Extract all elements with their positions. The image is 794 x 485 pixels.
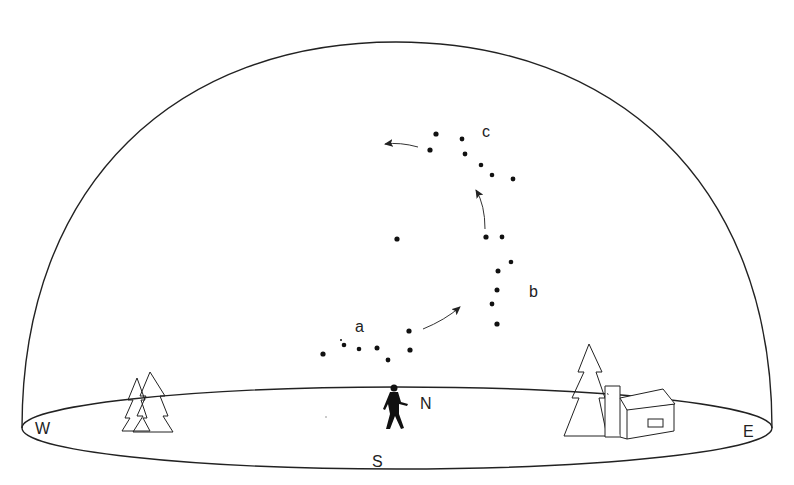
speck: [325, 416, 327, 418]
arrow-b-to-c: [476, 190, 485, 229]
constellation-b: [483, 234, 513, 326]
constellation-c: [427, 131, 515, 181]
celestial-dome-diagram: a b c N S W E: [0, 0, 794, 485]
label-east: E: [743, 423, 754, 440]
label-north: N: [420, 395, 432, 412]
arrow-a-to-b: [423, 307, 460, 329]
pine-tree-icon: [564, 344, 607, 436]
label-south: S: [372, 453, 383, 470]
label-b: b: [529, 283, 538, 300]
label-west: W: [35, 420, 51, 437]
label-c: c: [482, 123, 490, 140]
isolated-star: [394, 236, 399, 241]
constellation-a: [320, 328, 412, 362]
person-icon: [383, 385, 408, 430]
sky-dome: [22, 42, 772, 428]
cabin-icon: [605, 386, 675, 439]
pine-trees-icon: [122, 372, 173, 432]
arrow-c-westward: [385, 143, 418, 147]
label-a: a: [355, 318, 364, 335]
